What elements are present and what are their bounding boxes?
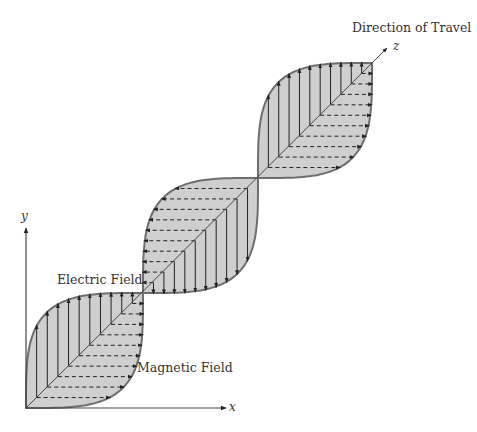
axes bbox=[26, 48, 387, 408]
z-axis bbox=[26, 48, 387, 408]
wave-figure bbox=[0, 0, 477, 432]
z-axis-label: z bbox=[393, 40, 399, 52]
electric-field-label: Electric Field bbox=[57, 274, 143, 287]
magnetic-field-label: Magnetic Field bbox=[137, 362, 233, 375]
lobe-2 bbox=[143, 178, 258, 293]
y-axis-label: y bbox=[21, 210, 28, 222]
em-wave-diagram: Direction of Travel Electric Field Magne… bbox=[0, 0, 477, 432]
direction-of-travel-label: Direction of Travel bbox=[352, 22, 471, 35]
x-axis-label: x bbox=[229, 401, 236, 413]
